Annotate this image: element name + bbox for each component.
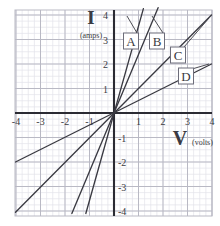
x-tick-label: 3	[185, 116, 190, 127]
series-label-text: A	[126, 34, 136, 49]
series-label-c: C	[171, 47, 186, 63]
series-label-a: A	[124, 33, 139, 49]
y-tick-label: -2	[118, 157, 126, 168]
series-label-text: C	[174, 48, 183, 63]
y-tick-label: -3	[118, 182, 126, 193]
y-tick-label: 1	[103, 84, 108, 95]
iv-characteristic-graph: -4-3-2-11234 4321-1-2-3-4 ABCD I (amps) …	[0, 0, 220, 226]
graph-figure: -4-3-2-11234 4321-1-2-3-4 ABCD I (amps) …	[0, 0, 220, 226]
x-tick-label: -4	[12, 116, 20, 127]
y-tick-label: 2	[103, 59, 108, 70]
y-tick-label: 3	[103, 35, 108, 46]
x-tick-label: 2	[161, 116, 166, 127]
series-label-d: D	[179, 68, 194, 84]
y-axis-name: I	[87, 7, 94, 28]
x-tick-label: 1	[136, 116, 141, 127]
series-label-b: B	[150, 33, 165, 49]
x-tick-label: -1	[85, 116, 93, 127]
x-tick-label: 4	[210, 116, 215, 127]
y-tick-label: 4	[103, 10, 108, 21]
series-label-text: B	[153, 34, 162, 49]
x-axis-name: V	[173, 127, 188, 149]
series-label-text: D	[181, 69, 190, 84]
y-tick-label: -1	[118, 133, 126, 144]
x-tick-label: -2	[61, 116, 69, 127]
x-tick-label: -3	[36, 116, 44, 127]
y-axis-unit: (amps)	[80, 31, 103, 40]
y-tick-label: -4	[118, 206, 126, 217]
x-axis-unit: (volts)	[192, 138, 213, 147]
